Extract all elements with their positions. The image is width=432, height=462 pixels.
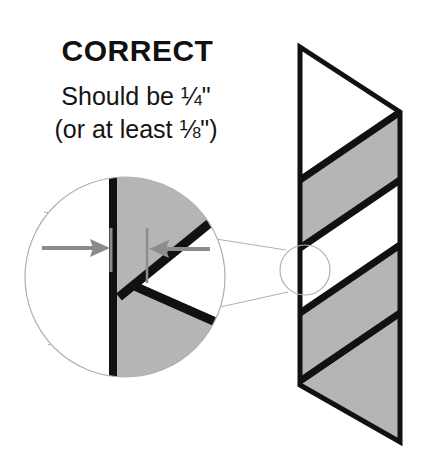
correct-spacing-figure: CORRECT Should be ¼" (or at least ⅛"): [0, 0, 432, 462]
main-panel: [300, 47, 400, 442]
figure-illustration: [0, 0, 432, 462]
